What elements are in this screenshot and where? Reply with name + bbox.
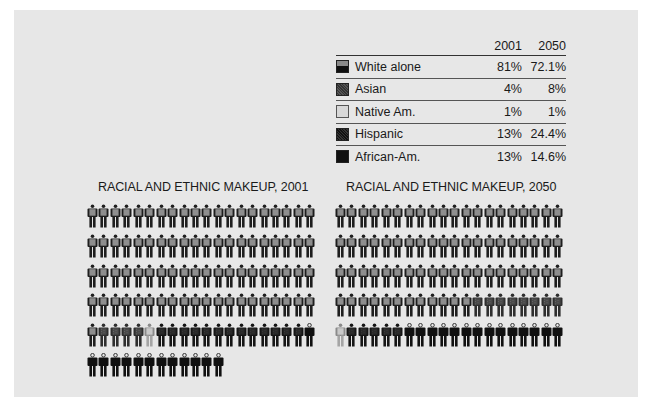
white-person-icon [358,264,369,294]
chart-title-2050: RACIAL AND ETHNIC MAKEUP, 2050 [346,180,556,194]
column-2001: 2001 [477,39,522,53]
white-person-icon [293,264,304,294]
white-person-icon [190,293,201,323]
hispanic-person-icon [346,323,357,353]
legend-row-african: African-Am. 13% 14.6% [336,146,566,168]
white-person-icon [98,264,109,294]
white-person-icon [98,204,109,234]
hispanic-person-icon [236,323,247,353]
white-person-icon [87,264,98,294]
white-person-icon [270,234,281,264]
white-person-icon [304,264,315,294]
native-person-icon [335,323,346,353]
white-person-icon [461,234,472,264]
african-person-icon [156,353,167,383]
white-person-icon [190,234,201,264]
african-person-icon [201,353,212,383]
white-person-icon [335,293,346,323]
value-2001: 4% [477,82,522,96]
white-person-icon [472,264,483,294]
hispanic-person-icon [179,323,190,353]
white-person-icon [427,293,438,323]
white-person-icon [346,204,357,234]
white-person-icon [156,234,167,264]
white-person-icon [270,264,281,294]
white-person-icon [87,323,98,353]
hispanic-swatch-icon [336,128,349,141]
legend-row-white: White alone 81% 72.1% [336,56,566,79]
white-person-icon [167,234,178,264]
white-person-icon [98,293,109,323]
white-person-icon [415,234,426,264]
white-person-icon [121,204,132,234]
asian-person-icon [110,323,121,353]
african-person-icon [110,353,121,383]
white-person-icon [144,234,155,264]
african-person-icon [507,323,518,353]
white-person-icon [213,204,224,234]
value-2050: 14.6% [522,150,566,164]
white-person-icon [369,204,380,234]
african-person-icon [495,323,506,353]
white-person-icon [507,234,518,264]
white-person-icon [461,264,472,294]
white-person-icon [167,293,178,323]
white-person-icon [529,264,540,294]
legend-row-native: Native Am. 1% 1% [336,101,566,124]
white-person-icon [415,264,426,294]
white-person-icon [87,293,98,323]
value-2001: 1% [477,105,522,119]
white-person-icon [449,293,460,323]
asian-person-icon [98,323,109,353]
hispanic-person-icon [190,323,201,353]
legend-table: 2001 2050 White alone 81% 72.1% Asian 4%… [336,33,566,168]
hispanic-person-icon [201,323,212,353]
native-person-icon [144,323,155,353]
white-person-icon [224,234,235,264]
african-person-icon [121,353,132,383]
white-person-icon [369,293,380,323]
white-person-icon [381,264,392,294]
white-person-icon [87,234,98,264]
white-person-icon [507,204,518,234]
asian-person-icon [507,293,518,323]
white-person-icon [484,204,495,234]
white-person-icon [201,264,212,294]
white-person-icon [98,234,109,264]
white-person-icon [224,204,235,234]
value-2050: 24.4% [522,127,566,141]
african-person-icon [179,353,190,383]
hispanic-person-icon [167,323,178,353]
white-person-icon [281,234,292,264]
white-person-icon [449,234,460,264]
hispanic-person-icon [259,323,270,353]
white-person-icon [438,234,449,264]
white-person-icon [190,204,201,234]
white-person-icon [121,264,132,294]
white-person-icon [247,234,258,264]
white-person-icon [404,293,415,323]
white-person-icon [404,234,415,264]
african-person-icon [213,353,224,383]
white-person-icon [133,204,144,234]
white-person-icon [156,204,167,234]
african-person-icon [415,323,426,353]
legend-label: African-Am. [355,150,477,164]
white-person-icon [213,234,224,264]
hispanic-person-icon [281,323,292,353]
white-person-icon [495,204,506,234]
legend-row-asian: Asian 4% 8% [336,79,566,102]
asian-person-icon [529,293,540,323]
legend-label: Asian [355,82,477,96]
white-person-icon [201,293,212,323]
white-person-icon [304,234,315,264]
white-person-icon [304,204,315,234]
value-2050: 1% [522,105,566,119]
white-person-icon [518,234,529,264]
african-person-icon [472,323,483,353]
white-person-icon [247,293,258,323]
asian-person-icon [121,323,132,353]
chart-title-2001: RACIAL AND ETHNIC MAKEUP, 2001 [98,180,308,194]
african-person-icon [541,323,552,353]
white-person-icon [381,293,392,323]
